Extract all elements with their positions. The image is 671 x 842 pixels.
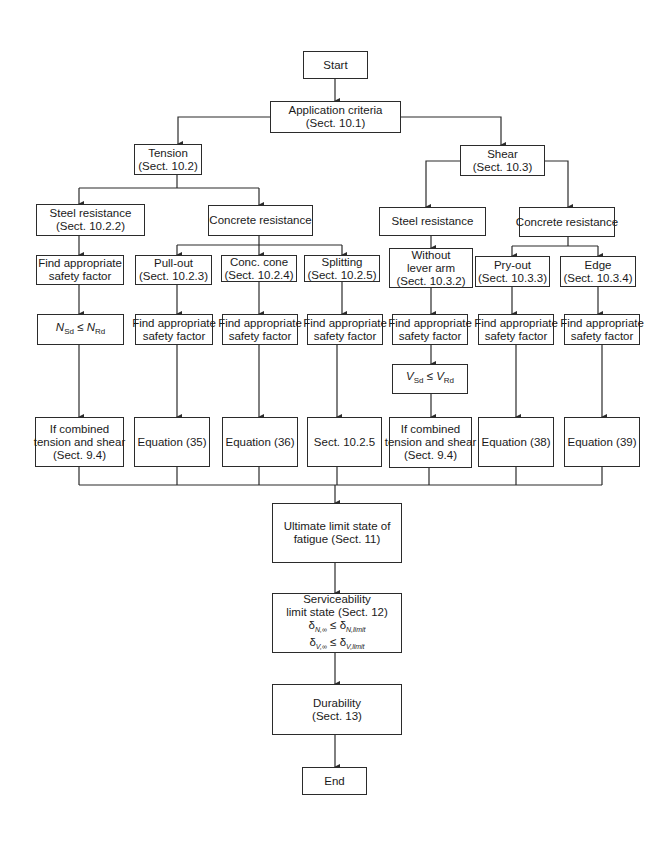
node-text: Conc. cone xyxy=(230,256,288,269)
node-section: (Sect. 10.3) xyxy=(473,161,532,174)
formula-rhs-sub: Rd xyxy=(95,327,105,336)
node-text: safety factor xyxy=(485,330,548,343)
node-text: Find appropriate xyxy=(38,257,122,270)
edge-node: Edge (Sect. 10.3.4) xyxy=(560,256,636,287)
pullout-node: Pull-out (Sect. 10.2.3) xyxy=(135,255,212,285)
node-text: Steel resistance xyxy=(392,215,474,228)
node-text: Find appropriate xyxy=(388,317,472,330)
node-text: Equation (38) xyxy=(481,436,550,449)
node-text: safety factor xyxy=(571,330,634,343)
formula-lhs-sub: Sd xyxy=(414,377,424,386)
node-text: Concrete resistance xyxy=(516,216,618,229)
tension-steel-safety-node: Find appropriate safety factor xyxy=(36,255,124,285)
node-text: tension and shear xyxy=(34,436,125,449)
node-section: (Sect. 10.3.2) xyxy=(396,275,465,288)
equation-39-node: Equation (39) xyxy=(564,417,640,467)
formula-rhs: V xyxy=(436,370,444,382)
shear-concrete-resistance-node: Concrete resistance xyxy=(519,207,615,237)
formula-lhs-sub: N,∞ xyxy=(315,626,327,633)
pryout-node: Pry-out (Sect. 10.3.3) xyxy=(475,256,550,287)
conc-cone-node: Conc. cone (Sect. 10.2.4) xyxy=(221,255,297,282)
node-text: tension and shear xyxy=(385,436,476,449)
node-text: Find appropriate xyxy=(303,317,387,330)
nsd-check-node: NSd ≤ NRd xyxy=(37,314,124,345)
splitting-safety-node: Find appropriate safety factor xyxy=(307,314,383,345)
formula-rhs-sub: N,limit xyxy=(346,626,365,633)
without-lever-arm-node: Without lever arm (Sect. 10.3.2) xyxy=(389,248,473,288)
node-text: Edge xyxy=(585,259,612,272)
node-section: (Sect. 10.2.5) xyxy=(307,269,376,282)
formula-op: ≤ xyxy=(330,636,336,648)
node-text: safety factor xyxy=(399,330,462,343)
node-text: If combined xyxy=(50,423,109,436)
equation-35-node: Equation (35) xyxy=(134,417,210,467)
node-text: Durability xyxy=(313,697,361,710)
node-section: (Sect. 10.1) xyxy=(306,117,365,130)
formula-lhs: V xyxy=(406,370,414,382)
node-section: (Sect. 10.3.4) xyxy=(563,272,632,285)
tension-concrete-resistance-node: Concrete resistance xyxy=(208,205,313,236)
shear-node: Shear (Sect. 10.3) xyxy=(460,145,545,176)
node-text: limit state (Sect. 12) xyxy=(286,606,388,619)
pryout-safety-node: Find appropriate safety factor xyxy=(478,314,554,345)
conc-cone-safety-node: Find appropriate safety factor xyxy=(222,314,298,345)
node-text: Sect. 10.2.5 xyxy=(314,436,375,449)
node-section: (Sect. 9.4) xyxy=(53,449,106,462)
node-text: Pull-out xyxy=(154,257,193,270)
node-text: safety factor xyxy=(143,330,206,343)
formula-rhs: N xyxy=(87,321,95,333)
node-text: safety factor xyxy=(229,330,292,343)
node-text: safety factor xyxy=(49,270,112,283)
vsd-check-node: VSd ≤ VRd xyxy=(392,364,468,394)
node-text: fatigue (Sect. 11) xyxy=(294,533,381,546)
node-section: (Sect. 10.2.3) xyxy=(139,270,208,283)
node-text: Concrete resistance xyxy=(209,214,311,227)
formula-rhs-sub: V,limit xyxy=(346,643,365,650)
deflection-condition-v: δV,∞ ≤ δV,limit xyxy=(309,636,364,653)
start-node: Start xyxy=(303,51,368,79)
node-text: Equation (39) xyxy=(567,436,636,449)
node-section: (Sect. 10.2) xyxy=(138,160,197,173)
equation-38-node: Equation (38) xyxy=(478,417,554,467)
durability-node: Durability (Sect. 13) xyxy=(272,684,402,735)
nsd-formula: NSd ≤ NRd xyxy=(56,321,105,338)
shear-steel-resistance-node: Steel resistance xyxy=(379,207,486,236)
node-section: (Sect. 10.2.4) xyxy=(224,269,293,282)
end-node: End xyxy=(302,767,367,795)
formula-op: ≤ xyxy=(330,619,336,631)
start-label: Start xyxy=(323,59,347,72)
node-section: (Sect. 10.2.2) xyxy=(56,220,125,233)
sect-10-2-5-node: Sect. 10.2.5 xyxy=(307,417,382,467)
deflection-condition-n: δN,∞ ≤ δN,limit xyxy=(309,619,366,636)
node-text: Find appropriate xyxy=(132,317,216,330)
serviceability-node: Serviceability limit state (Sect. 12) δN… xyxy=(272,593,402,653)
node-section: (Sect. 10.3.3) xyxy=(478,272,547,285)
node-text: Splitting xyxy=(322,256,363,269)
node-text: Equation (36) xyxy=(225,436,294,449)
node-text: Steel resistance xyxy=(50,207,132,220)
formula-lhs-sub: V,∞ xyxy=(316,643,327,650)
node-text: Find appropriate xyxy=(474,317,558,330)
tension-steel-resistance-node: Steel resistance (Sect. 10.2.2) xyxy=(36,204,145,236)
node-text: If combined xyxy=(401,423,460,436)
splitting-node: Splitting (Sect. 10.2.5) xyxy=(304,255,380,282)
node-text: Without xyxy=(412,249,451,262)
shear-combined-node: If combined tension and shear (Sect. 9.4… xyxy=(389,417,472,468)
tension-node: Tension (Sect. 10.2) xyxy=(134,144,202,175)
formula-lhs: N xyxy=(56,321,64,333)
node-text: lever arm xyxy=(407,262,455,275)
node-text: safety factor xyxy=(314,330,377,343)
tension-combined-node: If combined tension and shear (Sect. 9.4… xyxy=(35,417,124,467)
node-text: Ultimate limit state of xyxy=(284,520,391,533)
pullout-safety-node: Find appropriate safety factor xyxy=(135,314,213,345)
node-section: (Sect. 9.4) xyxy=(404,449,457,462)
vsd-formula: VSd ≤ VRd xyxy=(406,370,454,387)
node-text: Find appropriate xyxy=(218,317,302,330)
formula-op: ≤ xyxy=(77,321,83,333)
node-text: Application criteria xyxy=(289,104,383,117)
node-section: (Sect. 13) xyxy=(312,710,362,723)
node-text: Tension xyxy=(148,147,188,160)
application-criteria-node: Application criteria (Sect. 10.1) xyxy=(270,101,401,133)
equation-36-node: Equation (36) xyxy=(222,417,298,467)
node-text: Find appropriate xyxy=(560,317,644,330)
